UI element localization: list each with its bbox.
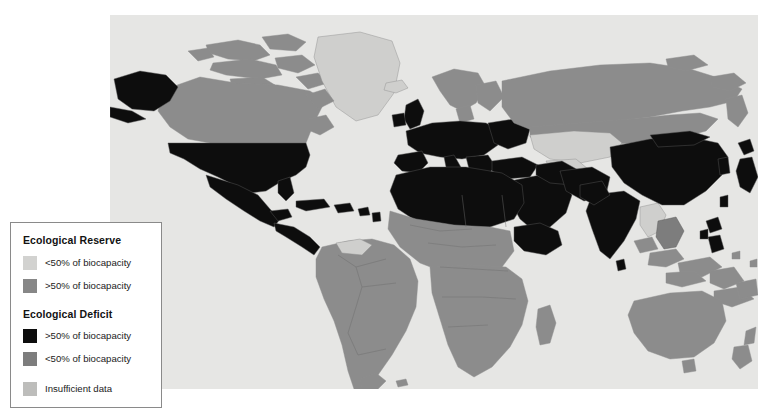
legend-heading-deficit: Ecological Deficit — [23, 309, 151, 321]
world-map-panel — [110, 15, 758, 389]
legend-label-insufficient-data: Insufficient data — [45, 384, 112, 394]
region-korea — [718, 157, 730, 175]
swatch-reserve-under50-icon — [23, 256, 37, 270]
swatch-deficit-over50-icon — [23, 329, 37, 343]
legend-heading-reserve: Ecological Reserve — [23, 235, 151, 247]
swatch-insufficient-data-icon — [23, 382, 37, 396]
swatch-reserve-over50-icon — [23, 279, 37, 293]
swatch-deficit-under50-icon — [23, 352, 37, 366]
map-legend: Ecological Reserve <50% of biocapacity >… — [10, 222, 162, 408]
legend-item-deficit-under50: <50% of biocapacity — [23, 349, 151, 369]
legend-item-deficit-over50: >50% of biocapacity — [23, 326, 151, 346]
legend-item-reserve-over50: >50% of biocapacity — [23, 276, 151, 296]
legend-label-reserve-under50: <50% of biocapacity — [45, 258, 131, 268]
world-map-svg — [110, 15, 758, 389]
legend-label-deficit-under50: <50% of biocapacity — [45, 354, 131, 364]
legend-item-insufficient-data: Insufficient data — [23, 379, 151, 399]
legend-label-reserve-over50: >50% of biocapacity — [45, 281, 131, 291]
legend-item-reserve-under50: <50% of biocapacity — [23, 253, 151, 273]
world-map-infographic: Ecological Reserve <50% of biocapacity >… — [0, 0, 778, 420]
legend-label-deficit-over50: >50% of biocapacity — [45, 331, 131, 341]
